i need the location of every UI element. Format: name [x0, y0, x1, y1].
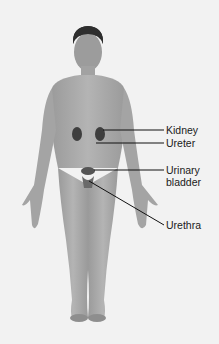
label-urinary-bladder-line2: bladder: [166, 177, 201, 188]
torso: [50, 75, 126, 168]
left-leg: [58, 168, 88, 318]
label-kidney: Kidney: [166, 125, 198, 136]
label-urethra: Urethra: [166, 220, 201, 231]
left-arm: [22, 88, 56, 228]
urinary-bladder: [81, 167, 95, 175]
left-kidney: [72, 127, 82, 141]
right-arm: [120, 88, 158, 228]
right-leg: [88, 168, 118, 318]
label-urinary-bladder-line1: Urinary: [166, 165, 200, 176]
label-ureter: Ureter: [166, 138, 195, 149]
right-kidney: [95, 127, 105, 141]
head: [74, 33, 102, 71]
